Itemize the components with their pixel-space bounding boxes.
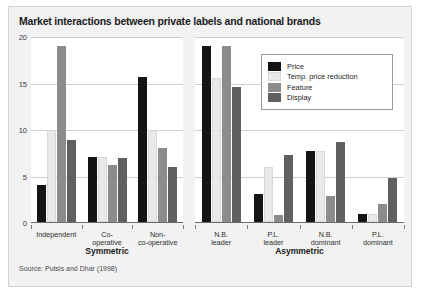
bar-price <box>358 214 367 222</box>
legend-item: Temp. price reduction <box>268 72 386 81</box>
bar-temp-price-reduction <box>148 130 157 223</box>
category-label: Non- co-operative <box>132 231 183 247</box>
x-axis-tick <box>132 225 133 229</box>
bar-feature <box>378 204 387 222</box>
x-axis-tick <box>195 225 196 229</box>
legend-swatch-icon <box>268 83 281 92</box>
bar-group <box>195 37 247 222</box>
bar-group <box>31 37 82 222</box>
legend-item: Feature <box>268 83 386 92</box>
legend-item: Display <box>268 93 386 102</box>
x-axis-tick <box>300 225 301 229</box>
legend-swatch-icon <box>268 62 281 71</box>
bar-display <box>336 142 345 222</box>
legend-label: Display <box>287 93 311 102</box>
figure-container: Market interactions between private labe… <box>8 6 412 287</box>
bar-feature <box>108 165 117 222</box>
bar-group <box>82 37 133 222</box>
bar-temp-price-reduction <box>316 151 325 222</box>
bar-display <box>232 87 241 222</box>
bar-feature <box>57 46 66 222</box>
y-axis-tick-label: 5 <box>23 172 27 181</box>
bar-temp-price-reduction <box>264 167 273 223</box>
x-axis-line <box>31 222 183 223</box>
bar-display <box>168 167 177 222</box>
category-label: N.B. dominant <box>300 231 352 247</box>
x-axis-ticks <box>195 225 404 229</box>
y-axis-tick-label: 10 <box>19 126 27 135</box>
bar-feature <box>222 46 231 222</box>
bar-feature <box>326 196 335 222</box>
legend-swatch-icon <box>268 72 281 81</box>
x-axis-tick <box>404 225 405 229</box>
y-axis-tick-label: 15 <box>19 79 27 88</box>
panel-symmetric <box>31 37 183 223</box>
bar-price <box>88 157 97 222</box>
category-label: Independent <box>31 231 82 247</box>
bar-price <box>37 185 46 222</box>
x-axis-line <box>195 222 404 223</box>
bar-temp-price-reduction <box>98 157 107 222</box>
legend-label: Temp. price reduction <box>287 72 358 81</box>
category-labels-asymmetric: N.B. leaderP.L. leaderN.B. dominantP.L. … <box>195 225 404 247</box>
x-axis-tick <box>31 225 32 229</box>
y-axis: 05101520 <box>9 37 31 223</box>
bar-display <box>118 158 127 222</box>
bar-temp-price-reduction <box>368 214 377 222</box>
chart-title: Market interactions between private labe… <box>19 15 321 27</box>
bar-price <box>138 77 147 222</box>
y-axis-tick-label: 0 <box>23 219 27 228</box>
bars-symmetric <box>31 37 183 222</box>
bar-display <box>284 155 293 222</box>
source-note: Source: Putsis and Dhar (1998) <box>19 265 117 272</box>
bar-temp-price-reduction <box>212 78 221 222</box>
bar-feature <box>158 148 167 222</box>
x-axis-tick <box>82 225 83 229</box>
bar-price <box>202 46 211 222</box>
bar-group <box>132 37 183 222</box>
x-axis-tick <box>352 225 353 229</box>
bar-feature <box>274 215 283 222</box>
category-label: P.L. leader <box>247 231 299 247</box>
bar-price <box>254 194 263 222</box>
bar-display <box>388 178 397 222</box>
x-axis-ticks <box>31 225 183 229</box>
bar-price <box>306 151 315 222</box>
y-axis-tick-label: 20 <box>19 33 27 42</box>
bar-temp-price-reduction <box>47 130 56 223</box>
x-axis-tick <box>247 225 248 229</box>
bar-display <box>67 140 76 222</box>
category-labels-symmetric: IndependentCo- operativeNon- co-operativ… <box>31 225 183 247</box>
chart-legend: PriceTemp. price reductionFeatureDisplay <box>261 54 393 110</box>
x-axis-tick <box>183 225 184 229</box>
category-label: Co- operative <box>82 231 133 247</box>
panel-label-asymmetric: Asymmetric <box>195 246 404 256</box>
legend-swatch-icon <box>268 93 281 102</box>
panel-label-symmetric: Symmetric <box>31 246 183 256</box>
category-label: P.L. dominant <box>352 231 404 247</box>
legend-label: Price <box>287 62 304 71</box>
category-label: N.B. leader <box>195 231 247 247</box>
legend-item: Price <box>268 62 386 71</box>
legend-label: Feature <box>287 83 312 92</box>
